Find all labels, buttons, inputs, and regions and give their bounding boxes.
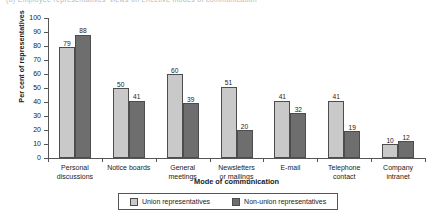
bar: 20 [237,130,253,158]
y-axis-title: Per cent of representatives [17,0,26,122]
bar-value-label: 12 [402,134,409,141]
bar-value-label: 60 [171,67,178,74]
bar-value-label: 41 [279,93,286,100]
y-tick-label-0: 0 [37,154,41,161]
bar: 39 [183,103,199,158]
x-tick-4 [263,158,264,162]
category-label-line: Company [362,164,434,173]
bar-value-label: 10 [386,137,393,144]
bar-value-label: 50 [117,81,124,88]
x-tick-2 [156,158,157,162]
bar-value-label: 41 [333,93,340,100]
x-tick-3 [210,158,211,162]
x-tick-5 [317,158,318,162]
bar: 51 [221,87,237,158]
y-tick-label-20: 20 [33,126,41,133]
legend-swatch [130,198,138,206]
x-tick-6 [371,158,372,162]
x-tick-0 [48,158,49,162]
y-tick-label-40: 40 [33,98,41,105]
y-tick-100: 100 [44,18,48,19]
bar-value-label: 32 [295,106,302,113]
y-tick-label-100: 100 [29,14,41,21]
y-tick-90: 90 [44,32,48,33]
chart-figure: (b) Employee representatives' views on e… [0,0,443,215]
bar: 19 [344,131,360,158]
bar: 41 [129,101,145,158]
legend-item: Union representatives [130,198,210,206]
bar: 79 [59,47,75,158]
legend-swatch [232,198,240,206]
bar-group: 5041 [113,18,145,158]
bar: 50 [113,88,129,158]
y-tick-70: 70 [44,60,48,61]
bar-value-label: 20 [241,123,248,130]
y-tick-60: 60 [44,74,48,75]
bar-group: 1012 [382,18,414,158]
y-tick-label-70: 70 [33,56,41,63]
bar-group: 7988 [59,18,91,158]
legend-label: Union representatives [142,198,210,205]
bar: 12 [398,141,414,158]
plot-area: 0102030405060708090100 79885041603951204… [48,18,425,158]
y-tick-80: 80 [44,46,48,47]
bar-group: 6039 [167,18,199,158]
bar: 10 [382,144,398,158]
bar: 60 [167,74,183,158]
y-tick-label-90: 90 [33,28,41,35]
bar: 41 [274,101,290,158]
bar-group: 4119 [328,18,360,158]
y-tick-30: 30 [44,116,48,117]
x-tick-7 [425,158,426,162]
y-tick-label-30: 30 [33,112,41,119]
y-axis-line [48,18,49,159]
y-tick-label-60: 60 [33,70,41,77]
x-axis-line [48,158,426,159]
y-tick-40: 40 [44,102,48,103]
y-tick-label-10: 10 [33,140,41,147]
x-axis-title: Mode of communication [48,177,425,186]
y-tick-label-50: 50 [33,84,41,91]
bar-group: 5120 [221,18,253,158]
bar-value-label: 19 [349,124,356,131]
bar: 32 [290,113,306,158]
bar: 88 [75,35,91,158]
y-tick-20: 20 [44,130,48,131]
bar-value-label: 41 [133,93,140,100]
y-tick-50: 50 [44,88,48,89]
bar-value-label: 39 [187,96,194,103]
bar-value-label: 51 [225,79,232,86]
bar-value-label: 88 [79,27,86,34]
cropped-caption-text: (b) Employee representatives' views on e… [6,0,436,6]
legend-label: Non-union representatives [244,198,326,205]
bar-group: 4132 [274,18,306,158]
chart-legend: Union representativesNon-union represent… [118,193,338,210]
y-tick-label-80: 80 [33,42,41,49]
y-tick-10: 10 [44,144,48,145]
x-tick-1 [102,158,103,162]
bar-value-label: 79 [63,40,70,47]
bar: 41 [328,101,344,158]
legend-item: Non-union representatives [232,198,326,206]
